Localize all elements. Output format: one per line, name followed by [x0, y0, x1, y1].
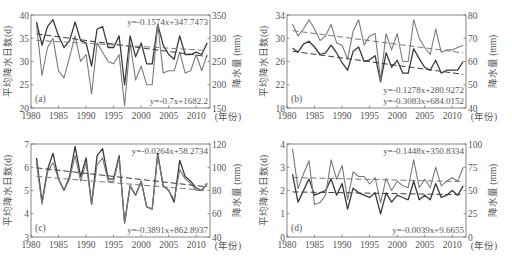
trend-equation: y=-0.1448x+350.8334 [383, 146, 464, 156]
x-tick-label: 1990 [77, 111, 96, 121]
y2-tick-label: 75 [468, 163, 478, 173]
y2-tick-label: 50 [468, 186, 478, 196]
y2-tick-label: 150 [212, 104, 227, 114]
y-tick-label: 22 [276, 80, 286, 90]
y-tick-label: 40 [20, 11, 30, 21]
trend-equation: y=-0.0264x+58.2734 [132, 146, 209, 156]
y-axis-label: 平均降水日数(d) [258, 155, 270, 226]
x-tick-label: 1995 [360, 111, 379, 121]
y2-tick-label: 0 [468, 233, 473, 243]
chart-svg: 1980198519901995200020052010(年份)34567406… [0, 129, 256, 258]
x-tick-label: 2010 [443, 111, 462, 121]
y2-axis-label: 降水量 (mm) [231, 164, 243, 217]
y2-tick-label: 50 [468, 80, 478, 90]
panel-label: (b) [291, 94, 302, 105]
y-axis-label: 平均降水日数(d) [2, 155, 14, 226]
x-axis-unit: (年份) [471, 240, 497, 252]
y2-tick-label: 250 [212, 57, 227, 67]
y-tick-label: 4 [280, 140, 285, 150]
series-line-precip [293, 149, 464, 205]
y-tick-label: 7 [24, 140, 29, 150]
panel-label: (a) [35, 94, 46, 105]
y-tick-label: 26 [276, 57, 286, 67]
x-tick-label: 2000 [388, 240, 407, 250]
y-tick-label: 6 [24, 163, 29, 173]
trend-equation: y=-0.0039x+9.6655 [392, 225, 464, 235]
y-tick-label: 0 [280, 233, 285, 243]
y-tick-label: 35 [20, 34, 30, 44]
y-axis-label: 平均降水日数(d) [2, 26, 14, 97]
x-tick-label: 1990 [333, 111, 352, 121]
y2-tick-label: 100 [468, 140, 483, 150]
trend-line [293, 177, 464, 181]
trend-equation: y=-0.1278x+280.9272 [383, 85, 464, 95]
y2-tick-label: 200 [212, 80, 227, 90]
panel-label: (d) [291, 223, 302, 234]
chart-panel-d: 1980198519901995200020052010(年份)01234025… [256, 129, 512, 258]
x-tick-label: 1995 [360, 240, 379, 250]
plot-frame [31, 144, 210, 237]
y2-tick-label: 40 [468, 104, 478, 114]
x-tick-label: 2010 [443, 240, 462, 250]
x-tick-label: 1985 [305, 111, 324, 121]
chart-svg: 1980198519901995200020052010(年份)01234025… [256, 129, 512, 258]
x-tick-label: 1985 [305, 240, 324, 250]
y2-tick-label: 25 [468, 209, 478, 219]
x-tick-label: 2010 [187, 111, 206, 121]
y-tick-label: 2 [280, 186, 285, 196]
y-tick-label: 18 [276, 104, 286, 114]
plot-frame [31, 15, 210, 108]
x-tick-label: 1995 [104, 111, 123, 121]
y-tick-label: 1 [280, 209, 285, 219]
y2-tick-label: 100 [212, 163, 227, 173]
x-tick-label: 2000 [388, 111, 407, 121]
y2-tick-label: 40 [212, 233, 222, 243]
trend-equation: y=-0.1574x+347.7473 [127, 17, 208, 27]
figure: 1980198519901995200020052010(年份)20253035… [0, 0, 512, 258]
x-tick-label: 2005 [159, 240, 178, 250]
x-tick-label: 2005 [415, 111, 434, 121]
y2-tick-label: 60 [468, 57, 478, 67]
x-tick-label: 2000 [132, 111, 151, 121]
y-tick-label: 3 [24, 233, 29, 243]
chart-svg: 1980198519901995200020052010(年份)20253035… [0, 0, 256, 129]
y2-axis-label: 降水量 (mm) [487, 164, 499, 217]
y-tick-label: 4 [24, 209, 29, 219]
y2-axis-label: 降水量 (mm) [231, 35, 243, 88]
y2-tick-label: 350 [212, 11, 227, 21]
plot-frame [287, 144, 466, 237]
x-tick-label: 2000 [132, 240, 151, 250]
trend-equation: y=-0.3891x+862.8937 [127, 225, 208, 235]
panel-label: (c) [35, 223, 46, 234]
y2-tick-label: 120 [212, 140, 227, 150]
y2-axis-label: 降水量 (mm) [487, 35, 499, 88]
x-tick-label: 2005 [415, 240, 434, 250]
y-tick-label: 3 [280, 163, 285, 173]
y2-tick-label: 80 [212, 186, 222, 196]
x-tick-label: 1990 [333, 240, 352, 250]
chart-panel-b: 1980198519901995200020052010(年份)18222630… [256, 0, 512, 129]
y-tick-label: 25 [20, 80, 30, 90]
trend-equation: y=-0.3083x+684.0152 [383, 96, 464, 106]
y-tick-label: 30 [20, 57, 30, 67]
trend-line [293, 31, 464, 53]
y-tick-label: 20 [20, 104, 30, 114]
y2-tick-label: 300 [212, 34, 227, 44]
trend-equation: y=-0.7x+1682.2 [150, 96, 208, 106]
x-tick-label: 1990 [77, 240, 96, 250]
y2-tick-label: 80 [468, 11, 478, 21]
x-tick-label: 1995 [104, 240, 123, 250]
y-tick-label: 30 [276, 34, 286, 44]
chart-panel-a: 1980198519901995200020052010(年份)20253035… [0, 0, 256, 129]
x-tick-label: 1985 [49, 240, 68, 250]
y-tick-label: 34 [276, 11, 286, 21]
y2-tick-label: 60 [212, 209, 222, 219]
chart-svg: 1980198519901995200020052010(年份)18222630… [256, 0, 512, 129]
x-tick-label: 2010 [187, 240, 206, 250]
chart-panel-c: 1980198519901995200020052010(年份)34567406… [0, 129, 256, 258]
y-axis-label: 平均降水日数(d) [258, 26, 270, 97]
y2-tick-label: 70 [468, 34, 478, 44]
x-tick-label: 1985 [49, 111, 68, 121]
x-tick-label: 2005 [159, 111, 178, 121]
y-tick-label: 5 [24, 186, 29, 196]
